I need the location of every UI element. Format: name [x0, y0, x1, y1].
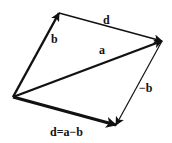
- label-d-equation: d=a−b: [50, 125, 83, 139]
- vector-b-arrow: [13, 13, 59, 97]
- label-d-top: d: [103, 13, 110, 27]
- label-neg-b: −b: [139, 81, 153, 95]
- label-a: a: [99, 43, 105, 57]
- vector-diagram: b d a −b d=a−b: [0, 0, 172, 143]
- vector-d-arrow: [13, 97, 116, 125]
- vector-d-top-arrow: [59, 13, 162, 41]
- label-b: b: [51, 32, 58, 46]
